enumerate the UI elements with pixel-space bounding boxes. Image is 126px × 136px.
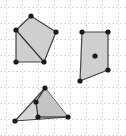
vertex-point[interactable] bbox=[105, 67, 110, 72]
vertex-point[interactable] bbox=[79, 29, 84, 34]
vertex-point[interactable] bbox=[12, 118, 17, 123]
figure-canvas bbox=[0, 0, 126, 136]
inner-vertex-upper[interactable] bbox=[33, 99, 38, 104]
vertex-point[interactable] bbox=[41, 59, 46, 64]
vertex-point[interactable] bbox=[105, 29, 110, 34]
center-point[interactable] bbox=[92, 53, 97, 58]
polygon-figure bbox=[0, 0, 126, 136]
vertex-point[interactable] bbox=[13, 59, 18, 64]
vertex-point[interactable] bbox=[65, 114, 70, 119]
vertex-point[interactable] bbox=[53, 29, 58, 34]
vertex-point[interactable] bbox=[77, 78, 82, 83]
vertex-point[interactable] bbox=[13, 27, 18, 32]
inner-vertex-lower[interactable] bbox=[35, 114, 40, 119]
vertex-point[interactable] bbox=[42, 85, 47, 90]
vertex-point[interactable] bbox=[28, 13, 33, 18]
